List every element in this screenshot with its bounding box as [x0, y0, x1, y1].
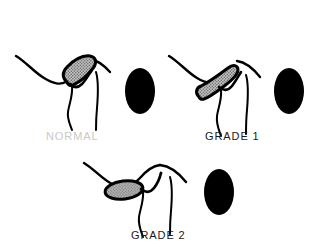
- normal-stem-right: [96, 72, 98, 130]
- normal-upper-contour: [16, 56, 66, 84]
- grade1-stem-right: [246, 75, 248, 134]
- figure-drawing: [0, 0, 319, 252]
- panel-grade1: [169, 56, 304, 136]
- grade2-stem-right: [170, 177, 172, 234]
- normal-stem-left: [68, 86, 72, 130]
- grade2-marker-ellipse: [204, 169, 234, 215]
- panel-label-grade1: GRADE 1: [205, 131, 260, 142]
- grade1-lesion-outline: [197, 66, 238, 100]
- grade2-right-contour: [160, 165, 186, 182]
- panel-label-normal: NORMAL: [46, 131, 98, 142]
- panel-grade2: [84, 163, 234, 237]
- panel-label-grade2: GRADE 2: [131, 230, 186, 241]
- panel-normal: [16, 56, 155, 130]
- normal-marker-ellipse: [125, 68, 155, 114]
- grade1-upper-contour: [169, 56, 216, 83]
- grade1-marker-ellipse: [274, 68, 304, 114]
- anatomical-figure: NORMAL GRADE 1 GRADE 2: [0, 0, 319, 252]
